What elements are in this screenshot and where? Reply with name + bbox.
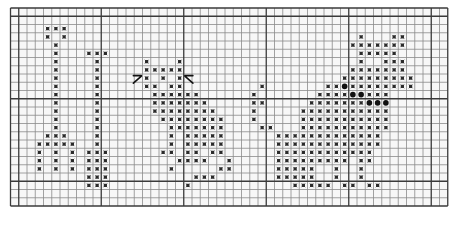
cross-stitch-icon xyxy=(169,93,173,97)
cross-stitch-icon xyxy=(376,134,380,138)
cross-stitch-icon xyxy=(95,93,99,97)
cross-stitch-icon xyxy=(95,101,99,105)
cross-stitch-icon xyxy=(153,93,157,97)
cross-stitch-icon xyxy=(367,109,371,113)
cross-stitch-icon xyxy=(367,76,371,80)
cross-stitch-icon xyxy=(260,126,264,130)
cross-stitch-icon xyxy=(54,126,58,130)
cross-stitch-icon xyxy=(178,126,182,130)
cross-stitch-icon xyxy=(54,109,58,113)
cross-stitch-icon xyxy=(334,117,338,121)
cross-stitch-icon xyxy=(178,84,182,88)
cross-stitch-icon xyxy=(367,134,371,138)
cross-stitch-icon xyxy=(392,60,396,64)
cross-stitch-icon xyxy=(367,183,371,187)
cross-stitch-icon xyxy=(277,150,281,154)
cross-stitch-icon xyxy=(326,159,330,163)
french-knot-dot-icon xyxy=(383,100,389,106)
cross-stitch-icon xyxy=(95,167,99,171)
cross-stitch-icon xyxy=(351,43,355,47)
cross-stitch-icon xyxy=(392,51,396,55)
cross-stitch-icon xyxy=(169,101,173,105)
cross-stitch-icon xyxy=(153,109,157,113)
cross-stitch-icon xyxy=(293,183,297,187)
french-knot-dot-icon xyxy=(367,100,373,106)
cross-stitch-icon xyxy=(351,101,355,105)
cross-stitch-icon xyxy=(384,117,388,121)
cross-stitch-icon xyxy=(400,76,404,80)
cross-stitch-icon xyxy=(392,43,396,47)
cross-stitch-icon xyxy=(178,117,182,121)
cross-stitch-icon xyxy=(409,76,413,80)
cross-stitch-icon xyxy=(384,60,388,64)
cross-stitch-icon xyxy=(202,159,206,163)
cross-stitch-icon xyxy=(161,93,165,97)
cross-stitch-icon xyxy=(169,126,173,130)
cross-stitch-icon xyxy=(219,142,223,146)
cross-stitch-icon xyxy=(310,109,314,113)
french-knot-dot-icon xyxy=(375,100,381,106)
cross-stitch-icon xyxy=(70,142,74,146)
cross-stitch-icon xyxy=(62,142,66,146)
cross-stitch-icon xyxy=(169,167,173,171)
cross-stitch-icon xyxy=(161,109,165,113)
cross-stitch-icon xyxy=(359,117,363,121)
cross-stitch-icon xyxy=(285,150,289,154)
cross-stitch-icon xyxy=(169,84,173,88)
cross-stitch-icon xyxy=(285,175,289,179)
cross-stitch-icon xyxy=(54,159,58,163)
cross-stitch-icon xyxy=(54,60,58,64)
cross-stitch-icon xyxy=(186,126,190,130)
cross-stitch-icon xyxy=(87,150,91,154)
cross-stitch-icon xyxy=(103,51,107,55)
cross-stitch-icon xyxy=(194,142,198,146)
cross-stitch-icon xyxy=(161,117,165,121)
cross-stitch-icon xyxy=(202,109,206,113)
cross-stitch-icon xyxy=(194,117,198,121)
cross-stitch-icon xyxy=(219,117,223,121)
cross-stitch-icon xyxy=(326,84,330,88)
cross-stitch-icon xyxy=(70,159,74,163)
cross-stitch-icon xyxy=(326,142,330,146)
cross-stitch-icon xyxy=(334,167,338,171)
cross-stitch-icon xyxy=(227,159,231,163)
cross-stitch-icon xyxy=(145,60,149,64)
cross-stitch-icon xyxy=(343,117,347,121)
cross-stitch-icon xyxy=(351,68,355,72)
cross-stitch-icon xyxy=(54,93,58,97)
cross-stitch-icon xyxy=(194,93,198,97)
cross-stitch-icon xyxy=(285,142,289,146)
french-knot-dot-icon xyxy=(350,92,356,98)
cross-stitch-icon xyxy=(95,175,99,179)
cross-stitch-icon xyxy=(103,175,107,179)
cross-stitch-icon xyxy=(301,134,305,138)
cross-stitch-icon xyxy=(310,159,314,163)
cross-stitch-icon xyxy=(343,150,347,154)
cross-stitch-icon xyxy=(301,142,305,146)
cross-stitch-icon xyxy=(186,93,190,97)
cross-stitch-icon xyxy=(194,101,198,105)
cross-stitch-icon xyxy=(87,51,91,55)
cross-stitch-icon xyxy=(277,134,281,138)
cross-stitch-icon xyxy=(359,51,363,55)
cross-stitch-icon xyxy=(376,84,380,88)
cross-stitch-icon xyxy=(277,159,281,163)
cross-stitch-icon xyxy=(400,84,404,88)
cross-stitch-icon xyxy=(46,134,50,138)
french-knot-dot-icon xyxy=(342,84,348,90)
cross-stitch-icon xyxy=(351,142,355,146)
cross-stitch-icon xyxy=(326,93,330,97)
cross-stitch-icon xyxy=(95,159,99,163)
cross-stitch-icon xyxy=(343,159,347,163)
cross-stitch-icon xyxy=(318,93,322,97)
cross-stitch-icon xyxy=(54,101,58,105)
cross-stitch-icon xyxy=(334,175,338,179)
cross-stitch-icon xyxy=(384,93,388,97)
cross-stitch-icon xyxy=(384,68,388,72)
cross-stitch-icon xyxy=(400,43,404,47)
cross-stitch-icon xyxy=(194,150,198,154)
cross-stitch-icon xyxy=(359,167,363,171)
cross-stitch-icon xyxy=(103,167,107,171)
cross-stitch-icon xyxy=(186,150,190,154)
cross-stitch-icon xyxy=(186,109,190,113)
